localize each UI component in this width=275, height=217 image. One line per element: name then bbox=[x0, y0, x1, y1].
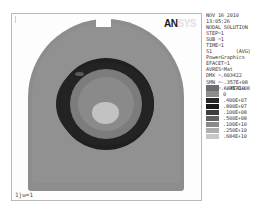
contour-legend: -.357E+08 0 .400E+07 .800E+07 .100E+08 .… bbox=[206, 85, 274, 139]
legend-label: -.357E+08 bbox=[223, 85, 250, 91]
ansys-logo-text: AN bbox=[164, 18, 177, 29]
legend-swatch bbox=[206, 91, 219, 96]
legend-swatch bbox=[206, 128, 219, 133]
legend-row: .684E+10 bbox=[206, 133, 274, 139]
stress-contour-core bbox=[92, 102, 119, 124]
fea-model bbox=[28, 19, 184, 191]
ansys-logo: ANSYS bbox=[164, 16, 196, 30]
legend-swatch bbox=[206, 104, 219, 109]
ansys-logo-ghost-text: SYS bbox=[177, 18, 196, 29]
model-top-notch bbox=[96, 18, 111, 27]
legend-swatch bbox=[206, 85, 219, 90]
legend-swatch bbox=[206, 98, 219, 103]
legend-swatch bbox=[206, 116, 219, 121]
ansys-plot-window: ANSYS 1jw=1 NOV 16 2010 13:05:26 NODAL S… bbox=[0, 0, 275, 217]
legend-swatch bbox=[206, 122, 219, 127]
legend-label: .684E+10 bbox=[223, 133, 247, 139]
legend-swatch bbox=[206, 134, 219, 139]
job-name-label: 1jw=1 bbox=[15, 191, 33, 198]
legend-swatch bbox=[206, 110, 219, 115]
stress-contour-speck bbox=[75, 72, 84, 76]
frame-corner-tick bbox=[15, 16, 16, 23]
graphics-plot-frame[interactable]: ANSYS 1jw=1 bbox=[11, 13, 202, 201]
